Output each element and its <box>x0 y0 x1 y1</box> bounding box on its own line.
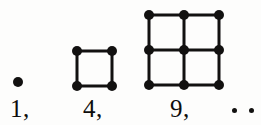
sequence-ellipsis <box>0 0 261 125</box>
square-numbers-figure: 1, 4, 9, <box>0 0 261 125</box>
ellipsis-dot <box>232 108 237 113</box>
ellipsis-dot <box>249 108 254 113</box>
